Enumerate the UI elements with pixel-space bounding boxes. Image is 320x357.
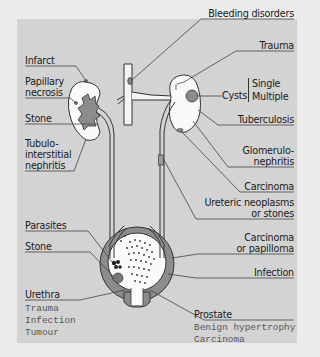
label-or-papilloma: or papilloma <box>236 243 294 254</box>
urethra-item-tumour: Tumour <box>25 327 59 338</box>
label-bleeding-disorders: Bleeding disorders <box>208 8 294 19</box>
label-prostate: Prostate <box>194 309 232 320</box>
label-glomerulo: Glomerulo- <box>243 145 294 156</box>
label-stone-bladder: Stone <box>25 241 52 252</box>
right-kidney-icon <box>159 75 201 258</box>
prostate-item-carcinoma: Carcinoma <box>194 334 245 345</box>
label-ureteric-neoplasms: Ureteric neoplasms <box>205 197 295 208</box>
label-glomerulo-nephritis: nephritis <box>254 156 294 167</box>
urethra-item-infection: Infection <box>25 315 76 326</box>
label-cysts: Cysts <box>222 90 247 101</box>
bladder-icon <box>100 220 174 307</box>
label-tuberculosis: Tuberculosis <box>238 114 294 125</box>
label-infection: Infection <box>254 267 294 278</box>
label-stone-kidney: Stone <box>25 113 52 124</box>
label-or-stones: or stones <box>251 208 294 219</box>
label-interstitial: interstitial <box>25 149 71 160</box>
aorta-icon <box>117 64 172 125</box>
label-trauma: Trauma <box>260 40 294 51</box>
cysts-bracket <box>248 78 249 102</box>
label-nephritis: nephritis <box>25 160 65 171</box>
label-necrosis: necrosis <box>25 87 63 98</box>
label-carcinoma-bladder: Carcinoma <box>244 232 294 243</box>
label-carcinoma-kidney: Carcinoma <box>244 181 294 192</box>
label-urethra: Urethra <box>25 289 60 300</box>
label-tubulo: Tubulo- <box>25 138 58 149</box>
label-parasites: Parasites <box>25 220 67 231</box>
label-papillary: Papillary <box>25 76 64 87</box>
label-infarct: Infarct <box>25 55 55 66</box>
label-cysts-multiple: Multiple <box>252 91 289 102</box>
prostate-item-benign-hypertrophy: Benign hypertrophy <box>194 322 295 333</box>
urethra-item-trauma: Trauma <box>25 303 59 314</box>
label-cysts-single: Single <box>252 78 280 89</box>
